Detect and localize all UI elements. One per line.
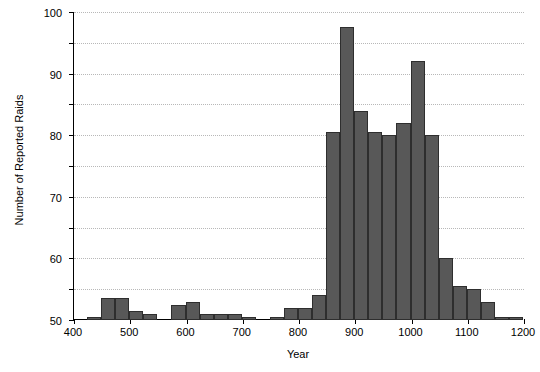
x-tick-label: 400: [64, 326, 82, 338]
histogram-bar: [200, 314, 214, 320]
histogram-bar: [143, 314, 157, 320]
histogram-bar: [214, 314, 228, 320]
histogram-bar: [481, 302, 495, 320]
y-axis-label: Number of Reported Raids: [8, 0, 30, 320]
histogram-bar: [467, 289, 481, 320]
histogram-bar: [509, 317, 523, 320]
x-tick-label: 1100: [455, 326, 479, 338]
y-tick-label: 80: [50, 130, 62, 142]
histogram-bar: [284, 308, 298, 320]
y-tick-label: 70: [50, 192, 62, 204]
histogram-bar: [396, 123, 410, 320]
x-tick-label: 600: [176, 326, 194, 338]
x-tick-label: 700: [233, 326, 251, 338]
x-axis-label: Year: [73, 348, 523, 360]
histogram-bar: [228, 314, 242, 320]
histogram-bar: [340, 27, 354, 320]
bars-layer: [73, 12, 523, 320]
histogram-figure: Number of Reported Raids 010203040506070…: [0, 0, 540, 372]
histogram-bar: [171, 305, 185, 320]
histogram-bar: [453, 286, 467, 320]
x-tick-label: 1000: [398, 326, 422, 338]
histogram-bar: [439, 258, 453, 320]
x-tick-mark: [524, 319, 525, 324]
histogram-bar: [242, 317, 256, 320]
y-tick-label: 60: [50, 253, 62, 265]
y-tick-label: 100: [44, 7, 62, 19]
x-tick-label: 1200: [511, 326, 535, 338]
histogram-bar: [270, 317, 284, 320]
histogram-bar: [87, 317, 101, 320]
histogram-bar: [411, 61, 425, 320]
y-tick-label: 50: [50, 315, 62, 327]
histogram-bar: [298, 308, 312, 320]
histogram-bar: [129, 311, 143, 320]
x-tick-label: 900: [345, 326, 363, 338]
x-tick-label: 800: [289, 326, 307, 338]
x-tick-label: 500: [120, 326, 138, 338]
histogram-bar: [312, 295, 326, 320]
histogram-bar: [326, 132, 340, 320]
histogram-bar: [115, 298, 129, 320]
histogram-bar: [495, 317, 509, 320]
histogram-bar: [101, 298, 115, 320]
y-axis-label-text: Number of Reported Raids: [13, 95, 25, 226]
histogram-bar: [368, 132, 382, 320]
histogram-bar: [382, 135, 396, 320]
histogram-bar: [186, 302, 200, 320]
y-tick-label: 90: [50, 69, 62, 81]
histogram-bar: [354, 111, 368, 320]
histogram-bar: [425, 135, 439, 320]
